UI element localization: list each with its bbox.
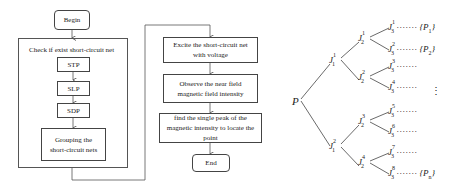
end-label: End [205,158,216,168]
tree-node-l1: J11 [329,54,335,67]
tree-node-l1: J21 [329,140,335,153]
tree-leaf: J63 ······· [388,125,417,138]
tree-leaf: J73 ······· [388,146,417,159]
begin-node: Begin [54,10,90,30]
sdp-step: SDP [57,103,90,118]
tree-leaf: J33 ······· [388,60,417,73]
grouping-step: Grouping the short-circuit nets [41,128,106,161]
container-title: Check if exist short-circuit net [29,46,114,54]
tree-leaf: J43 ······· [388,81,417,94]
slp-label: SLP [67,84,79,94]
tree-node-l2: J42 [358,156,364,169]
observe-step: Observe the near field magnetic field in… [163,74,258,103]
stp-label: STP [67,60,79,70]
find-peak-step: find the single peak of the magnetic int… [159,113,262,143]
tree-node-l2: J32 [358,115,364,128]
tree-leaf: J13 ······· {P1} [388,21,435,34]
slp-step: SLP [57,81,90,96]
observe-label: Observe the near field magnetic field in… [174,79,247,99]
tree-root: P [292,95,299,107]
grouping-label: Grouping the short-circuit nets [46,135,101,155]
excite-step: Excite the short-circuit net with voltag… [163,37,258,63]
tree-leaf: J83 ······· {Pn} [388,167,435,180]
find-peak-label: find the single peak of the magnetic int… [164,113,257,143]
begin-label: Begin [64,15,81,25]
sdp-label: SDP [67,106,80,116]
tree-node-l2: J22 [358,71,364,84]
excite-label: Excite the short-circuit net with voltag… [172,40,249,60]
end-node: End [192,154,230,172]
vertical-ellipsis: ⋮ [431,86,441,95]
tree-node-l2: J12 [358,32,364,45]
stp-step: STP [57,57,90,72]
tree-leaf: J53 ······· [388,105,417,118]
tree-leaf: J23 ······· {P2} [388,43,435,56]
